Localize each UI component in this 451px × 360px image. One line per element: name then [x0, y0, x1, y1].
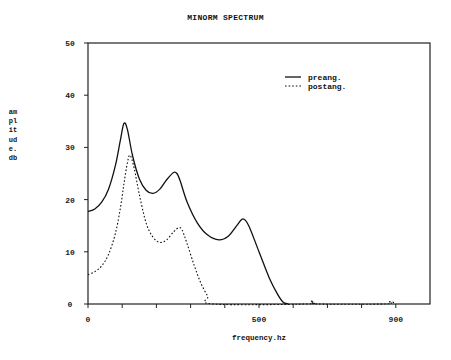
y-tick-label: 0: [68, 300, 73, 309]
legend-label: postang.: [308, 82, 346, 91]
y-tick-label: 10: [65, 248, 75, 257]
series-line-preang: [88, 123, 288, 304]
plot-frame: [88, 43, 430, 304]
legend: preang.postang.: [285, 73, 346, 91]
series-line-postang: [88, 155, 396, 305]
y-tick-label: 50: [65, 39, 75, 48]
x-axis-ticks: 0500900: [86, 304, 404, 324]
y-tick-label: 30: [65, 143, 75, 152]
y-tick-label: 40: [65, 91, 75, 100]
y-axis-ticks: 01020304050: [65, 39, 88, 309]
y-tick-label: 20: [65, 196, 75, 205]
data-series: [88, 123, 396, 305]
x-tick-label: 500: [252, 315, 267, 324]
x-tick-label: 0: [86, 315, 91, 324]
plot-area: 01020304050 0500900 preang.postang.: [0, 0, 451, 360]
x-tick-label: 900: [389, 315, 404, 324]
legend-label: preang.: [308, 73, 342, 82]
